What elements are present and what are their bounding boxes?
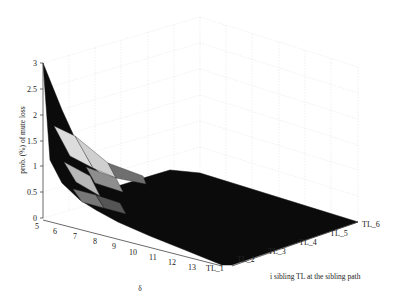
z-axis-label: prob. (%) of mute loss xyxy=(18,106,27,173)
x-tick: 11 xyxy=(149,253,157,262)
x-axis-label: δ xyxy=(138,284,142,293)
z-tick: 0.5 xyxy=(27,188,37,197)
z-tick: 2.5 xyxy=(27,85,37,94)
z-tick: 1.5 xyxy=(27,137,37,146)
y-axis-label: i sibling TL at the sibling path xyxy=(270,272,361,281)
z-tick: 3 xyxy=(33,59,37,68)
y-tick: TL_3 xyxy=(268,247,286,256)
x-tick: 6 xyxy=(53,227,57,236)
x-tick: 9 xyxy=(112,242,116,251)
x-tick: 12 xyxy=(168,258,176,267)
z-tick: 2 xyxy=(33,111,37,120)
z-tick: 1 xyxy=(33,162,37,171)
z-axis-ticks: 0 0.5 1 1.5 2 2.5 3 xyxy=(27,59,43,223)
y-tick: TL_4 xyxy=(299,238,317,247)
y-tick: TL_5 xyxy=(330,229,348,238)
x-tick: 10 xyxy=(129,248,137,257)
x-tick: 5 xyxy=(35,222,39,231)
x-tick: 13 xyxy=(188,263,196,272)
y-tick: TL_2 xyxy=(237,255,255,264)
surface xyxy=(43,63,358,265)
y-tick: TL_1 xyxy=(206,264,224,273)
x-tick: 8 xyxy=(93,237,97,246)
surface-plot: 0 0.5 1 1.5 2 2.5 3 prob. (%) of mute lo… xyxy=(0,0,393,305)
y-tick: TL_6 xyxy=(362,220,380,229)
x-tick: 7 xyxy=(73,232,77,241)
